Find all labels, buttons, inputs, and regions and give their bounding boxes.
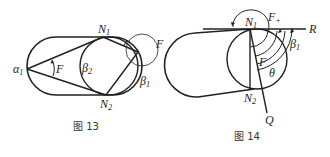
line-alpha1-n1 bbox=[27, 37, 103, 69]
line-right-n2 bbox=[106, 52, 138, 95]
label-Fplus: F+ bbox=[267, 10, 281, 25]
label-beta1: β1 bbox=[139, 74, 150, 89]
arrow-head-alpha1 bbox=[51, 60, 55, 64]
label-F-inner: F bbox=[55, 62, 64, 76]
label-F: F bbox=[258, 55, 267, 69]
label-Q: Q bbox=[265, 113, 274, 127]
label-alpha1: α1 bbox=[13, 62, 23, 77]
caption-fig13: 图 13 bbox=[73, 121, 99, 132]
label-theta: θ bbox=[269, 66, 275, 80]
label-F-outer: F bbox=[155, 37, 164, 51]
stadium-outline bbox=[164, 29, 254, 97]
figure-13 bbox=[27, 34, 158, 95]
line-alpha1-n2 bbox=[27, 69, 106, 95]
diagram-canvas: N1 N2 α1 β2 β1 F F 图 13 N1 N2 F+ F θ bbox=[0, 0, 330, 157]
label-n1: N1 bbox=[97, 22, 110, 37]
label-beta1: β1 bbox=[289, 37, 300, 52]
circle-main bbox=[227, 29, 287, 89]
label-n1: N1 bbox=[244, 15, 257, 30]
figure-13-labels: N1 N2 α1 β2 β1 F F 图 13 bbox=[13, 22, 164, 132]
label-beta2: β2 bbox=[81, 61, 92, 76]
caption-fig14: 图 14 bbox=[234, 131, 260, 142]
label-R: R bbox=[308, 22, 317, 36]
circle-beta2 bbox=[80, 37, 138, 95]
figure-14 bbox=[164, 10, 306, 113]
label-n2: N2 bbox=[243, 91, 256, 106]
label-n2: N2 bbox=[99, 97, 112, 112]
